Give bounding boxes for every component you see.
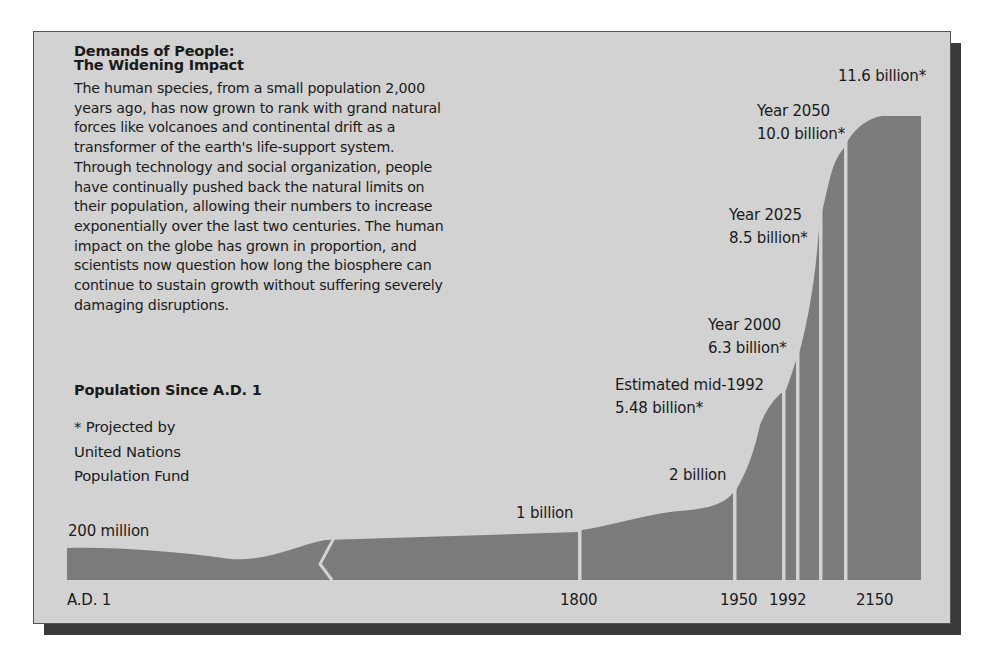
x-tick-1992: 1992	[769, 589, 806, 612]
x-tick-ad1: A.D. 1	[67, 589, 111, 612]
label-1992-line2: 5.48 billion*	[615, 397, 764, 420]
x-tick-1800: 1800	[560, 589, 597, 612]
label-2050-value: Year 2050 10.0 billion*	[757, 100, 845, 145]
label-2000-value: Year 2000 6.3 billion*	[708, 314, 787, 359]
label-2000-line1: Year 2000	[708, 314, 787, 337]
divider-1992	[782, 380, 786, 582]
x-tick-1950: 1950	[720, 589, 757, 612]
label-1992-line1: Estimated mid-1992	[615, 374, 764, 397]
label-2025-line1: Year 2025	[729, 204, 808, 227]
divider-2000	[796, 340, 800, 582]
x-tick-2150: 2150	[856, 589, 893, 612]
label-2150-value: 11.6 billion*	[838, 65, 926, 88]
label-ad1-value: 200 million	[68, 520, 149, 543]
divider-1950	[733, 480, 737, 582]
label-2025-line2: 8.5 billion*	[729, 227, 808, 250]
label-2000-line2: 6.3 billion*	[708, 337, 787, 360]
label-2025-value: Year 2025 8.5 billion*	[729, 204, 808, 249]
label-1950-value: 2 billion	[669, 464, 726, 487]
population-area	[67, 116, 921, 580]
divider-2025	[819, 200, 823, 582]
population-area-chart	[0, 0, 986, 652]
label-1800-value: 1 billion	[516, 502, 573, 525]
label-2050-line2: 10.0 billion*	[757, 123, 845, 146]
label-1992-value: Estimated mid-1992 5.48 billion*	[615, 374, 764, 419]
label-2050-line1: Year 2050	[757, 100, 845, 123]
divider-2050	[844, 130, 848, 582]
divider-1800	[578, 520, 582, 582]
